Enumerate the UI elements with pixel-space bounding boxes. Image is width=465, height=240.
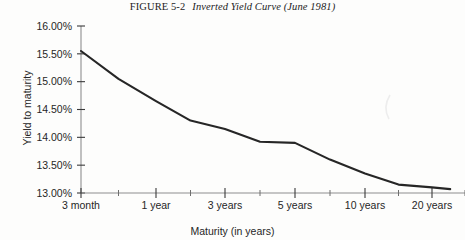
y-axis-group: 16.00%15.50%15.00%14.50%14.00%13.50%13.0… [36,20,85,199]
y-tick-label: 16.00% [36,20,72,32]
y-tick-label: 13.00% [36,187,72,199]
scan-artifacts [386,95,390,119]
x-tick-label: 1 year [141,199,171,211]
scan-blemish-mark [386,95,390,119]
y-tick-label: 15.00% [36,75,72,87]
y-tick-label: 14.00% [36,131,72,143]
y-tick-label: 15.50% [36,48,72,60]
x-tick-label: 5 years [278,199,312,211]
x-tick-label: 3 month [62,199,100,211]
y-tick-label: 13.50% [36,159,72,171]
yield-curve-line [81,51,450,189]
figure-container: FIGURE 5-2Inverted Yield Curve (June 198… [0,0,465,240]
x-tick-label: 10 years [345,199,385,211]
x-tick-labels: 3 month1 year3 years5 years10 years20 ye… [62,199,452,211]
y-tick-labels: 16.00%15.50%15.00%14.50%14.00%13.50%13.0… [36,20,72,199]
y-tick-label: 14.50% [36,103,72,115]
x-axis-group: 3 month1 year3 years5 years10 years20 ye… [62,188,465,211]
x-tick-label: 20 years [412,199,452,211]
x-tick-label: 3 years [208,199,242,211]
yield-curve-plot: 16.00%15.50%15.00%14.50%14.00%13.50%13.0… [0,0,465,240]
